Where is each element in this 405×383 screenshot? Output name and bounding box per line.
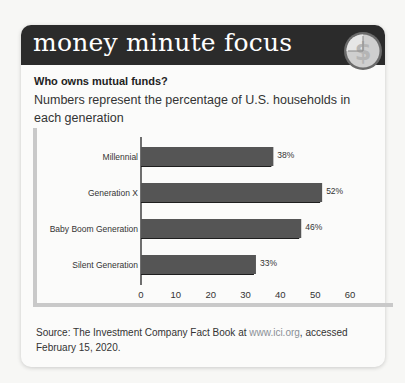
x-tick-label: 60	[345, 289, 356, 300]
category-label: Silent Generation	[72, 260, 138, 270]
category-label: Baby Boom Generation	[50, 224, 139, 234]
x-tick-label: 0	[138, 289, 143, 300]
value-label: 52%	[326, 186, 343, 196]
x-tick-label: 50	[310, 289, 321, 300]
category-label: Generation X	[88, 188, 138, 198]
x-tick-label: 30	[240, 289, 251, 300]
value-label: 33%	[260, 258, 277, 268]
bar	[141, 219, 301, 238]
value-label: 46%	[305, 222, 322, 232]
bar	[141, 255, 256, 274]
category-label: Millennial	[103, 152, 139, 162]
x-tick-label: 40	[275, 289, 286, 300]
bar	[141, 147, 273, 166]
value-label: 38%	[277, 150, 294, 160]
x-tick-label: 10	[171, 289, 182, 300]
bar-chart: Millennial38%Generation X52%Baby Boom Ge…	[0, 0, 405, 383]
x-tick-label: 20	[205, 289, 216, 300]
bar	[141, 183, 322, 202]
